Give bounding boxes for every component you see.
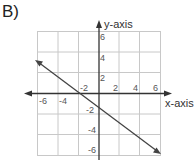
x-tick: 4	[133, 83, 138, 93]
coordinate-plane: y-axis x-axis -6 -4 -2 2 4 6 6 4 2 -2 -4…	[0, 0, 196, 163]
y-tick: 4	[100, 53, 105, 63]
y-tick: -4	[88, 125, 96, 135]
y-tick: -6	[88, 145, 96, 155]
x-tick: 2	[113, 83, 118, 93]
y-tick: 2	[100, 73, 105, 83]
x-tick: -6	[39, 96, 47, 106]
y-tick: -2	[86, 105, 94, 115]
x-tick: 6	[153, 83, 158, 93]
x-tick: -4	[59, 96, 67, 106]
x-tick: -2	[80, 83, 88, 93]
x-axis-right-arrow-icon	[164, 91, 172, 97]
y-axis-up-arrow-icon	[96, 20, 102, 28]
y-tick: 6	[100, 32, 105, 42]
x-axis-left-arrow-icon	[24, 91, 32, 97]
y-axis-title: y-axis	[104, 18, 133, 30]
x-axis-title: x-axis	[165, 97, 194, 109]
